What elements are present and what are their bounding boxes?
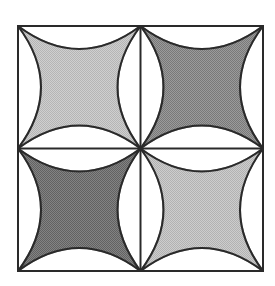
texture-bottom-right — [141, 149, 264, 272]
texture-bottom-left — [18, 149, 141, 272]
texture-top-right — [141, 26, 264, 149]
texture-top-left — [18, 26, 141, 149]
concave-squares-diagram — [0, 0, 275, 286]
